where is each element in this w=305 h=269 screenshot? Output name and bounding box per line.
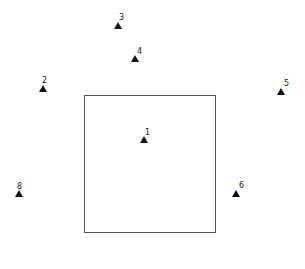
marker-label: 2 (42, 77, 47, 85)
boundary-square (84, 95, 216, 233)
triangle-icon (15, 190, 23, 197)
marker-label: 1 (145, 129, 150, 137)
marker-label: 8 (17, 183, 22, 191)
marker-label: 4 (137, 48, 142, 56)
marker-label: 3 (119, 14, 124, 22)
triangle-icon (39, 85, 47, 92)
marker-label: 5 (284, 80, 289, 88)
triangle-icon (140, 136, 148, 143)
triangle-icon (232, 190, 240, 197)
marker-label: 6 (239, 182, 244, 190)
triangle-icon (277, 88, 285, 95)
triangle-icon (131, 55, 139, 62)
triangle-icon (114, 22, 122, 29)
